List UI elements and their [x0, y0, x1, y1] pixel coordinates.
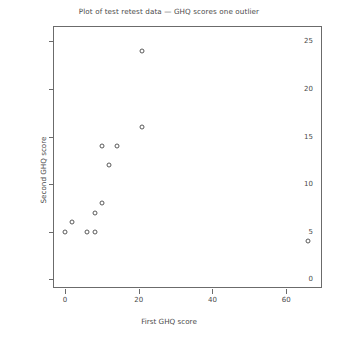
plot-area: 0510152025 0204060 — [53, 26, 322, 288]
data-point — [70, 220, 75, 225]
scatter-plot-figure: Plot of test retest data — GHQ scores on… — [0, 0, 338, 340]
data-point — [99, 144, 104, 149]
data-point — [306, 239, 311, 244]
x-tick-mark — [139, 289, 140, 294]
x-axis-label: First GHQ score — [0, 317, 338, 326]
chart-title: Plot of test retest data — GHQ scores on… — [0, 7, 338, 16]
data-point — [140, 125, 145, 130]
data-point — [114, 144, 119, 149]
data-point — [99, 201, 104, 206]
data-points-layer — [54, 27, 321, 287]
y-axis-label: Second GHQ score — [39, 137, 48, 204]
data-point — [140, 48, 145, 53]
x-tick-mark — [286, 289, 287, 294]
x-tick-mark — [65, 289, 66, 294]
x-tick-label: 40 — [208, 296, 217, 304]
data-point — [107, 163, 112, 168]
data-point — [63, 229, 68, 234]
data-point — [92, 229, 97, 234]
x-tick-label: 20 — [134, 296, 143, 304]
x-tick-label: 60 — [282, 296, 291, 304]
data-point — [92, 210, 97, 215]
data-point — [85, 229, 90, 234]
x-tick-label: 0 — [63, 296, 67, 304]
x-tick-mark — [212, 289, 213, 294]
